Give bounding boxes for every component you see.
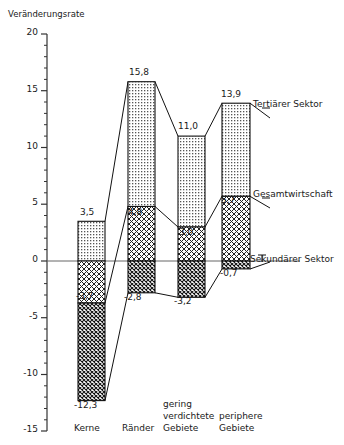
y-axis	[41, 34, 47, 431]
y-tick-5: 5	[16, 198, 38, 207]
legend-item-tertiaerer-sektor: Tertiärer Sektor	[253, 100, 323, 109]
chart-canvas	[0, 0, 344, 445]
bar-raender[interactable]	[128, 82, 155, 293]
category-label-gering-line1: gering	[163, 400, 192, 409]
y-tick-10: 10	[16, 142, 38, 151]
y-axis-title: Veränderungsrate	[8, 10, 84, 19]
value-label-kerne-total: -3,7	[76, 292, 94, 301]
value-label-periphere-total: 5,7	[221, 196, 235, 205]
category-label-raender: Ränder	[122, 424, 154, 433]
bar-periphere-gebiete[interactable]	[222, 103, 250, 269]
category-label-gering-line2: verdichtete	[163, 412, 214, 421]
value-label-raender-secondary: -2,8	[124, 293, 142, 302]
value-label-gering-total: 3,0	[179, 228, 193, 237]
legend-leaders	[258, 108, 270, 262]
value-label-kerne-tertiary: 3,5	[80, 208, 94, 217]
value-label-periphere-tertiary: 13,9	[221, 90, 241, 99]
y-tick-15: 15	[16, 85, 38, 94]
value-label-raender-total: 4,8	[128, 208, 142, 217]
category-label-periphere-line1: periphere	[219, 412, 262, 421]
y-tick-0: 0	[16, 255, 38, 264]
y-tick-m15: -15	[16, 425, 38, 434]
value-label-periphere-secondary: -0,7	[220, 269, 238, 278]
category-label-kerne: Kerne	[74, 424, 100, 433]
y-tick-m5: -5	[16, 312, 38, 321]
value-label-gering-secondary: -3,2	[174, 297, 192, 306]
legend-item-sekundaerer-sektor: Sekundärer Sektor	[250, 255, 334, 264]
value-label-gering-tertiary: 11,0	[178, 122, 198, 131]
category-label-gering-line3: Gebiete	[163, 424, 198, 433]
bar-kerne[interactable]	[78, 221, 105, 400]
y-tick-20: 20	[16, 28, 38, 37]
category-label-periphere-line2: Gebiete	[219, 424, 254, 433]
value-label-raender-tertiary: 15,8	[129, 68, 149, 77]
y-tick-m10: -10	[16, 369, 38, 378]
legend-item-gesamtwirtschaft: Gesamtwirtschaft	[253, 190, 333, 199]
bar-gering-verdichtete-gebiete[interactable]	[178, 136, 205, 297]
value-label-kerne-secondary: -12,3	[74, 401, 97, 410]
